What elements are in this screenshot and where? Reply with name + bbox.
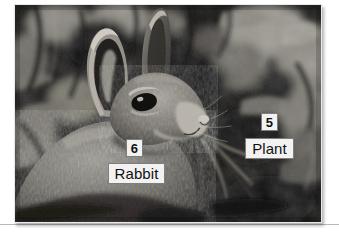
callout-number-6: 6 (126, 139, 143, 157)
horizontal-divider (0, 224, 339, 225)
callout-label-rabbit: Rabbit (108, 163, 165, 184)
callout-number-5: 5 (261, 113, 278, 131)
callout-label-plant: Plant (245, 138, 294, 159)
page-root: 6 Rabbit 5 Plant (0, 0, 339, 247)
